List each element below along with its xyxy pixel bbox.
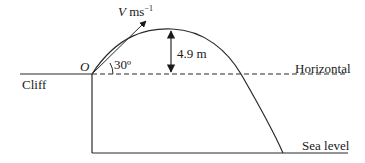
- velocity-label: V ms−1: [118, 5, 153, 18]
- angle-label: 30º: [114, 58, 131, 71]
- origin-label: O: [80, 60, 89, 73]
- velocity-unit: ms: [129, 4, 144, 19]
- velocity-exponent: −1: [144, 4, 153, 13]
- velocity-symbol: V: [118, 4, 126, 19]
- horizontal-label: Horizontal: [295, 62, 351, 75]
- cliff-label: Cliff: [22, 78, 46, 91]
- angle-arc: [110, 63, 113, 74]
- projectile-diagram: V ms−1 O 30º 4.9 m Horizontal Cliff Sea …: [0, 0, 365, 163]
- sea-level-label: Sea level: [302, 139, 349, 152]
- height-label: 4.9 m: [177, 47, 207, 60]
